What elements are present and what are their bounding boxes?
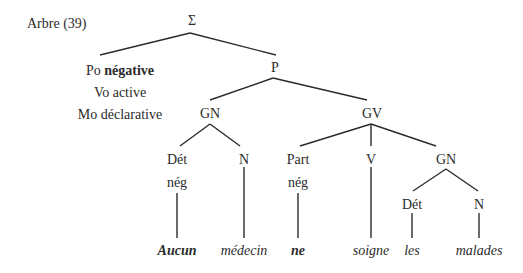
node-det-neg-sub: nég	[167, 175, 187, 191]
feature-polarity-label: Po	[86, 63, 101, 78]
node-part-neg: Part	[287, 152, 310, 168]
word-malades: malades	[456, 243, 503, 259]
word-medecin: médecin	[221, 243, 268, 259]
feature-voice: Vo active	[94, 85, 146, 101]
node-det-object: Dét	[402, 197, 422, 213]
node-part-neg-sub: nég	[288, 175, 308, 191]
node-gn-subject: GN	[200, 106, 220, 122]
node-sigma: Σ	[188, 13, 196, 29]
word-aucun: Aucun	[158, 243, 197, 259]
word-soigne: soigne	[353, 243, 390, 259]
node-n-subject: N	[239, 152, 249, 168]
node-gv: GV	[362, 106, 382, 122]
tree-edges	[0, 0, 523, 273]
node-v: V	[366, 152, 376, 168]
word-ne: ne	[291, 243, 305, 259]
node-det-neg: Dét	[167, 152, 187, 168]
word-les: les	[404, 243, 420, 259]
node-p: P	[271, 60, 279, 76]
node-gn-object: GN	[436, 152, 456, 168]
node-n-object: N	[474, 197, 484, 213]
tree-title: Arbre (39)	[27, 16, 86, 32]
feature-polarity-value: négative	[104, 63, 154, 78]
feature-polarity: Po négative	[86, 63, 154, 79]
feature-mode: Mo déclarative	[78, 107, 162, 123]
